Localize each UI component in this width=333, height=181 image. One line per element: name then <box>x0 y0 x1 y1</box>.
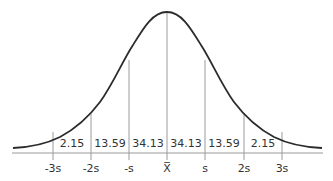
tick-label-minus-1s: -s <box>124 162 134 175</box>
tick-label-plus-3s: 3s <box>276 162 289 175</box>
tick-label-minus-2s: -2s <box>83 162 100 175</box>
region-pct-3: 34.13 <box>132 137 164 150</box>
normal-distribution-diagram: 2.15 13.59 34.13 34.13 13.59 2.15 -3s -2… <box>0 0 333 181</box>
tick-label-mean: X̅ <box>163 162 171 175</box>
tick-label-plus-1s: s <box>202 162 208 175</box>
region-pct-4: 34.13 <box>170 137 202 150</box>
diagram-canvas: 2.15 13.59 34.13 34.13 13.59 2.15 -3s -2… <box>0 0 333 181</box>
tick-label-plus-2s: 2s <box>238 162 251 175</box>
region-pct-5: 13.59 <box>208 137 240 150</box>
region-pct-6: 2.15 <box>251 137 276 150</box>
region-pct-2: 13.59 <box>94 137 126 150</box>
region-pct-1: 2.15 <box>60 137 85 150</box>
tick-label-minus-3s: -3s <box>45 162 62 175</box>
